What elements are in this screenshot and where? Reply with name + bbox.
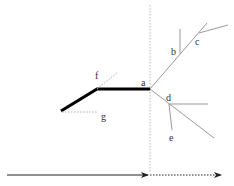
label-f: f (95, 70, 99, 81)
label-b: b (171, 46, 176, 57)
c-branch (199, 25, 228, 33)
label-c: c (195, 36, 200, 47)
branching-diagram: a b c d e f g (0, 0, 234, 186)
upper-branch (150, 23, 207, 89)
e-branch (169, 104, 172, 130)
lower-branch (150, 89, 214, 138)
label-e: e (169, 132, 174, 143)
f-dotted-line (97, 72, 118, 89)
label-a: a (141, 77, 146, 88)
thick-path (61, 89, 150, 111)
label-g: g (101, 111, 106, 122)
label-d: d (166, 92, 171, 103)
